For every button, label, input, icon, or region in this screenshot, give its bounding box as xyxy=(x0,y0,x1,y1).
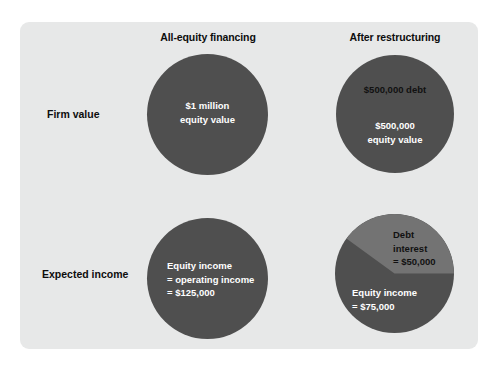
pie-expected-income-all-equity xyxy=(147,218,268,339)
pie-slice-debt-interest xyxy=(335,214,454,333)
row-label-firm-value: Firm value xyxy=(47,108,100,120)
pie-firm-value-after-restructuring xyxy=(336,55,454,173)
pie-expected-income-after-restructuring xyxy=(335,214,454,333)
row-label-expected-income: Expected income xyxy=(42,268,128,280)
figure-panel: All-equity financing After restructuring… xyxy=(20,22,478,349)
column-header-all-equity-financing: All-equity financing xyxy=(140,31,276,43)
pie-firm-value-all-equity xyxy=(147,54,268,175)
column-header-after-restructuring: After restructuring xyxy=(327,31,463,43)
